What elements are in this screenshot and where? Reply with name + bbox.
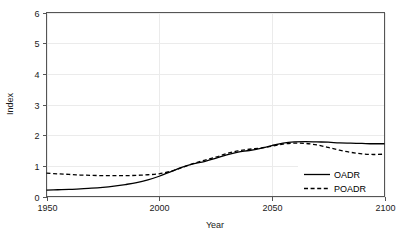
chart-container: 0123456 1950200020502100 Index Year OADR… (0, 0, 398, 233)
legend: OADR POADR (298, 166, 384, 194)
x-tick-label: 2100 (375, 203, 395, 213)
legend-label-oadr: OADR (334, 170, 361, 180)
y-tick-label: 5 (34, 39, 39, 49)
y-tick-label: 2 (34, 131, 39, 141)
y-axis: 0123456 (34, 9, 46, 203)
y-tick-label: 6 (34, 9, 39, 19)
x-tick-label: 2000 (149, 203, 169, 213)
y-tick-label: 1 (34, 162, 39, 172)
x-axis: 1950200020502100 (37, 197, 395, 213)
y-tick-label: 3 (34, 101, 39, 111)
y-tick-label: 4 (34, 70, 39, 80)
y-axis-title: Index (5, 92, 15, 115)
x-tick-label: 1950 (37, 203, 57, 213)
x-tick-label: 2050 (262, 203, 282, 213)
line-chart: 0123456 1950200020502100 Index Year OADR… (0, 0, 398, 233)
legend-label-poadr: POADR (334, 184, 367, 194)
y-tick-label: 0 (34, 193, 39, 203)
x-axis-title: Year (206, 220, 224, 230)
